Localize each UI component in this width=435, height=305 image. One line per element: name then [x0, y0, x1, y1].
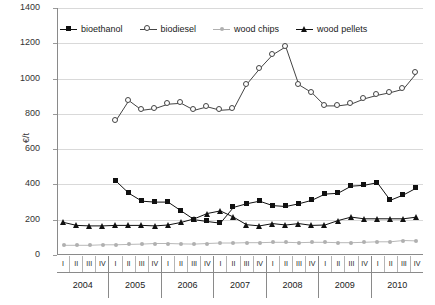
x-tick-year: 2008 — [267, 272, 319, 298]
data-point — [335, 218, 341, 224]
chart-legend: bioethanolbiodieselwood chipswood pellet… — [60, 24, 367, 34]
data-point — [282, 222, 288, 228]
data-point — [256, 223, 262, 229]
data-point — [152, 223, 158, 229]
legend-item-biodiesel[interactable]: biodiesel — [140, 24, 197, 34]
data-point — [165, 222, 171, 228]
data-point — [204, 211, 210, 217]
x-tick-quarter: I — [214, 256, 227, 272]
data-point — [413, 214, 419, 220]
x-tick-year: 2004 — [57, 272, 109, 298]
data-point — [230, 214, 236, 220]
x-tick-quarter: IV — [359, 256, 372, 272]
x-tick-quarter: IV — [149, 256, 162, 272]
x-tick-quarter: II — [385, 256, 398, 272]
x-axis: IIIIIIIVIIIIIIIVIIIIIIIVIIIIIIIVIIIIIIIV… — [57, 256, 423, 298]
x-tick-quarter: I — [57, 256, 70, 272]
x-tick-quarter: IV — [306, 256, 319, 272]
x-tick-year: 2005 — [109, 272, 161, 298]
data-point — [99, 223, 105, 229]
legend-item-bioethanol[interactable]: bioethanol — [60, 24, 123, 34]
x-tick-quarter: III — [398, 256, 411, 272]
data-point — [269, 221, 275, 227]
legend-marker-icon — [60, 25, 77, 34]
x-tick-quarter: III — [188, 256, 201, 272]
x-tick-quarter: III — [83, 256, 96, 272]
data-point — [387, 216, 393, 222]
x-tick-quarter: IV — [411, 256, 423, 272]
x-tick-quarter: II — [70, 256, 83, 272]
data-point — [217, 208, 223, 214]
x-tick-quarter: III — [136, 256, 149, 272]
data-point — [243, 222, 249, 228]
x-tick-year: 2007 — [214, 272, 266, 298]
y-tick-label: 1400 — [0, 3, 40, 12]
legend-item-wood-pellets[interactable]: wood pellets — [296, 24, 367, 34]
data-point — [112, 222, 118, 228]
x-tick-quarter: III — [293, 256, 306, 272]
x-tick-quarter: I — [162, 256, 175, 272]
y-tick-label: 1200 — [0, 38, 40, 47]
x-tick-quarter: IV — [96, 256, 109, 272]
x-tick-quarter: I — [372, 256, 385, 272]
y-tick-label: 200 — [0, 215, 40, 224]
y-tick-label: 600 — [0, 144, 40, 153]
x-tick-quarter: I — [267, 256, 280, 272]
data-point — [321, 222, 327, 228]
x-tick-quarter: IV — [254, 256, 267, 272]
x-tick-quarter: II — [280, 256, 293, 272]
x-tick-quarter: II — [175, 256, 188, 272]
x-tick-year: 2009 — [319, 272, 371, 298]
data-point — [374, 216, 380, 222]
data-point — [86, 223, 92, 229]
data-point — [361, 216, 367, 222]
data-point — [125, 222, 131, 228]
legend-label: wood pellets — [317, 24, 367, 34]
x-tick-quarter: IV — [201, 256, 214, 272]
x-tick-quarter: I — [109, 256, 122, 272]
y-tick-label: 800 — [0, 109, 40, 118]
x-tick-year: 2006 — [162, 272, 214, 298]
data-point — [308, 222, 314, 228]
x-tick-year: 2010 — [372, 272, 423, 298]
legend-label: bioethanol — [81, 24, 123, 34]
plot-area — [57, 8, 423, 255]
x-axis-quarter-row: IIIIIIIVIIIIIIIVIIIIIIIVIIIIIIIVIIIIIIIV… — [57, 256, 423, 273]
legend-marker-icon — [296, 25, 313, 34]
data-point — [60, 219, 66, 225]
data-point — [178, 219, 184, 225]
legend-label: wood chips — [234, 24, 279, 34]
x-tick-quarter: II — [227, 256, 240, 272]
x-tick-quarter: II — [123, 256, 136, 272]
legend-marker-icon — [213, 25, 230, 34]
y-tick-label: 400 — [0, 179, 40, 188]
data-point — [400, 216, 406, 222]
data-point — [191, 216, 197, 222]
data-point — [73, 222, 79, 228]
legend-label: biodiesel — [161, 24, 197, 34]
y-tick-label: 0 — [0, 250, 40, 259]
x-tick-quarter: III — [241, 256, 254, 272]
data-point — [348, 214, 354, 220]
x-axis-year-row: 2004200520062007200820092010 — [57, 272, 423, 298]
legend-item-wood-chips[interactable]: wood chips — [213, 24, 279, 34]
chart-container: €/t 1400120010008006004002000 bioethanol… — [0, 0, 435, 305]
x-tick-quarter: I — [319, 256, 332, 272]
legend-marker-icon — [140, 25, 157, 34]
x-tick-quarter: III — [345, 256, 358, 272]
x-tick-quarter: II — [332, 256, 345, 272]
data-point — [138, 222, 144, 228]
data-point — [295, 221, 301, 227]
y-tick-label: 1000 — [0, 74, 40, 83]
series-markers — [57, 8, 423, 255]
